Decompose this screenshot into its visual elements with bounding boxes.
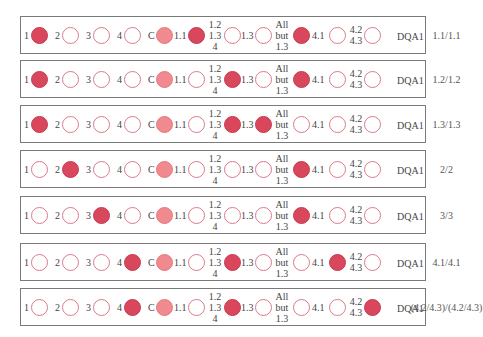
probe-dot-4-1 bbox=[329, 27, 346, 44]
probe-label-4-2-4-3: 4.2 4.3 bbox=[348, 158, 364, 180]
probe-dot-3 bbox=[93, 254, 110, 271]
probe-dot-4 bbox=[124, 299, 141, 316]
probe-label-4-2-4-3: 4.2 4.3 bbox=[348, 24, 364, 46]
probe-dot-c bbox=[156, 207, 173, 224]
probe-dot-1-3 bbox=[255, 254, 272, 271]
probe-label-1: 1 bbox=[24, 120, 29, 130]
probe-dot-1-3 bbox=[255, 207, 272, 224]
probe-dot-4 bbox=[124, 161, 141, 178]
probe-dot-4 bbox=[124, 71, 141, 88]
probe-dot-3 bbox=[93, 161, 110, 178]
probe-label-4-1: 4.1 bbox=[312, 303, 325, 313]
probe-dot-1-1 bbox=[188, 299, 205, 316]
probe-label-all-but-1-3: All but 1.3 bbox=[272, 63, 292, 96]
probe-label-4-2-4-3: 4.2 4.3 bbox=[348, 251, 364, 273]
probe-label-4: 4 bbox=[117, 303, 122, 313]
typing-strip-row-1: 1 2 3 4 C 1.1 1.2 1.3 4 1.3 All but bbox=[20, 16, 426, 54]
probe-label-c: C bbox=[148, 211, 155, 221]
probe-label-3: 3 bbox=[86, 258, 91, 268]
probe-dot-2 bbox=[62, 161, 79, 178]
typing-strip-row-4: 1 2 3 4 C 1.1 1.2 1.3 4 1.3 All but bbox=[20, 150, 426, 188]
probe-dot-all-but-1-3 bbox=[293, 299, 310, 316]
probe-dot-4 bbox=[124, 116, 141, 133]
probe-label-4-1: 4.1 bbox=[312, 211, 325, 221]
probe-dot-c bbox=[156, 116, 173, 133]
probe-label-4-1: 4.1 bbox=[312, 120, 325, 130]
probe-dot-4-1 bbox=[329, 161, 346, 178]
probe-label-1-2-1-3-4: 1.2 1.3 4 bbox=[207, 291, 223, 324]
typing-strip: 1 2 3 4 C 1.1 1.2 1.3 4 1.3 All but bbox=[20, 60, 426, 98]
probe-dot-1-2-1-3-4 bbox=[224, 299, 241, 316]
probe-dot-all-but-1-3 bbox=[293, 161, 310, 178]
probe-label-1: 1 bbox=[24, 75, 29, 85]
probe-label-1-1: 1.1 bbox=[174, 165, 187, 175]
probe-label-2: 2 bbox=[55, 258, 60, 268]
probe-label-all-but-1-3: All but 1.3 bbox=[272, 246, 292, 279]
typing-strip: 1 2 3 4 C 1.1 1.2 1.3 4 1.3 All but bbox=[20, 288, 426, 326]
probe-dot-1-1 bbox=[188, 161, 205, 178]
probe-dot-4-2-4-3 bbox=[364, 207, 381, 224]
probe-dot-3 bbox=[93, 71, 110, 88]
probe-label-2: 2 bbox=[55, 31, 60, 41]
probe-dot-4 bbox=[124, 27, 141, 44]
probe-label-1-2-1-3-4: 1.2 1.3 4 bbox=[207, 246, 223, 279]
probe-label-2: 2 bbox=[55, 211, 60, 221]
probe-label-c: C bbox=[148, 303, 155, 313]
probe-label-all-but-1-3: All but 1.3 bbox=[272, 291, 292, 324]
genotype-label: 1.2/1.2 bbox=[410, 74, 483, 85]
probe-dot-1-2-1-3-4 bbox=[224, 254, 241, 271]
typing-strip: 1 2 3 4 C 1.1 1.2 1.3 4 1.3 All but bbox=[20, 16, 426, 54]
typing-strip-row-5: 1 2 3 4 C 1.1 1.2 1.3 4 1.3 All but bbox=[20, 196, 426, 234]
probe-dot-1-1 bbox=[188, 254, 205, 271]
probe-label-c: C bbox=[148, 120, 155, 130]
probe-dot-2 bbox=[62, 299, 79, 316]
probe-dot-c bbox=[156, 161, 173, 178]
probe-dot-1 bbox=[31, 116, 48, 133]
probe-label-1-2-1-3-4: 1.2 1.3 4 bbox=[207, 19, 223, 52]
probe-dot-1 bbox=[31, 207, 48, 224]
probe-label-2: 2 bbox=[55, 120, 60, 130]
probe-label-4-1: 4.1 bbox=[312, 75, 325, 85]
probe-label-2: 2 bbox=[55, 303, 60, 313]
probe-dot-2 bbox=[62, 71, 79, 88]
probe-label-1-1: 1.1 bbox=[174, 31, 187, 41]
probe-label-1-3: 1.3 bbox=[241, 303, 254, 313]
genotype-label: 1.3/1.3 bbox=[410, 119, 483, 130]
probe-label-1-1: 1.1 bbox=[174, 211, 187, 221]
probe-label-3: 3 bbox=[86, 211, 91, 221]
probe-dot-1-1 bbox=[188, 71, 205, 88]
probe-label-1-3: 1.3 bbox=[241, 75, 254, 85]
probe-label-3: 3 bbox=[86, 31, 91, 41]
probe-dot-c bbox=[156, 27, 173, 44]
probe-dot-c bbox=[156, 71, 173, 88]
probe-dot-1-2-1-3-4 bbox=[224, 27, 241, 44]
probe-dot-2 bbox=[62, 254, 79, 271]
probe-dot-1-3 bbox=[255, 161, 272, 178]
typing-strip: 1 2 3 4 C 1.1 1.2 1.3 4 1.3 All but bbox=[20, 243, 426, 281]
probe-dot-all-but-1-3 bbox=[293, 254, 310, 271]
genotype-label: 2/2 bbox=[410, 164, 483, 175]
probe-dot-4-1 bbox=[329, 299, 346, 316]
probe-label-all-but-1-3: All but 1.3 bbox=[272, 108, 292, 141]
probe-dot-4-1 bbox=[329, 254, 346, 271]
probe-label-4-2-4-3: 4.2 4.3 bbox=[348, 113, 364, 135]
probe-dot-1 bbox=[31, 27, 48, 44]
probe-dot-1-2-1-3-4 bbox=[224, 161, 241, 178]
probe-dot-4-2-4-3 bbox=[364, 254, 381, 271]
probe-label-4-2-4-3: 4.2 4.3 bbox=[348, 204, 364, 226]
probe-dot-4-2-4-3 bbox=[364, 27, 381, 44]
probe-dot-1-3 bbox=[255, 299, 272, 316]
probe-label-4-2-4-3: 4.2 4.3 bbox=[348, 68, 364, 90]
probe-label-1-1: 1.1 bbox=[174, 75, 187, 85]
probe-dot-4-2-4-3 bbox=[364, 161, 381, 178]
probe-dot-1-3 bbox=[255, 27, 272, 44]
probe-label-3: 3 bbox=[86, 75, 91, 85]
probe-dot-3 bbox=[93, 27, 110, 44]
probe-dot-4 bbox=[124, 254, 141, 271]
probe-label-4-2-4-3: 4.2 4.3 bbox=[348, 296, 364, 318]
probe-dot-1 bbox=[31, 254, 48, 271]
probe-label-3: 3 bbox=[86, 303, 91, 313]
probe-label-1-3: 1.3 bbox=[241, 211, 254, 221]
probe-label-1-2-1-3-4: 1.2 1.3 4 bbox=[207, 153, 223, 186]
probe-label-4-1: 4.1 bbox=[312, 31, 325, 41]
